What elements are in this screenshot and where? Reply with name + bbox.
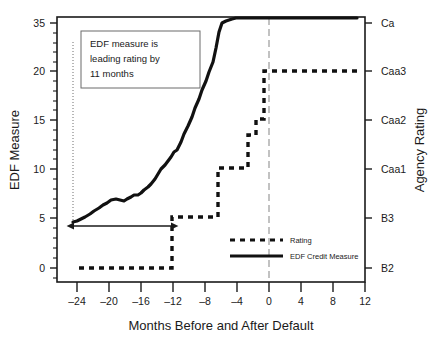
y2-tick-label-b3: B3 [381, 212, 394, 224]
y2-tick-label-b2: B2 [381, 262, 394, 274]
y-tick-label-35: 35 [33, 17, 45, 29]
y-tick-label-10: 10 [33, 163, 45, 175]
x-tick-label--12: –12 [164, 295, 182, 307]
y2-axis-ticks [365, 23, 372, 268]
y-tick-label-5: 5 [39, 212, 45, 224]
x-tick-label--4: –4 [231, 295, 243, 307]
y-axis-major-ticks [50, 23, 57, 268]
y-tick-label-15: 15 [33, 114, 45, 126]
x-tick-label--16: –16 [132, 295, 150, 307]
x-tick-label--8: –8 [199, 295, 211, 307]
annotation-line-1: EDF measure is [90, 38, 158, 49]
annotation-line-2: leading rating by [90, 53, 160, 64]
y-tick-label-0: 0 [39, 262, 45, 274]
y-axis-title: EDF Measure [7, 110, 22, 190]
annotation-line-3: 11 months [90, 68, 134, 79]
x-axis-title: Months Before and After Default [129, 318, 314, 333]
legend-label-edf: EDF Credit Measure [290, 252, 358, 261]
x-tick-label-12: 12 [359, 295, 371, 307]
legend-label-rating: Rating [290, 236, 312, 245]
y2-tick-label-caa2: Caa2 [381, 114, 406, 126]
edf-vs-rating-chart: 35 20 15 10 5 0 EDF Measure Ca Caa3 Caa2… [0, 0, 435, 344]
x-tick-label-0: 0 [266, 295, 272, 307]
y2-axis-title: Agency Rating [412, 108, 427, 193]
x-tick-label--20: –20 [100, 295, 118, 307]
x-tick-label-8: 8 [330, 295, 336, 307]
x-tick-label-4: 4 [298, 295, 304, 307]
y2-tick-label-ca: Ca [381, 17, 395, 29]
y2-tick-label-caa3: Caa3 [381, 65, 406, 77]
y2-tick-label-caa1: Caa1 [381, 163, 406, 175]
x-tick-label--24: –24 [68, 295, 86, 307]
x-axis-major-ticks [77, 282, 365, 292]
chart-figure: 35 20 15 10 5 0 EDF Measure Ca Caa3 Caa2… [0, 0, 435, 344]
y-tick-label-20: 20 [33, 65, 45, 77]
